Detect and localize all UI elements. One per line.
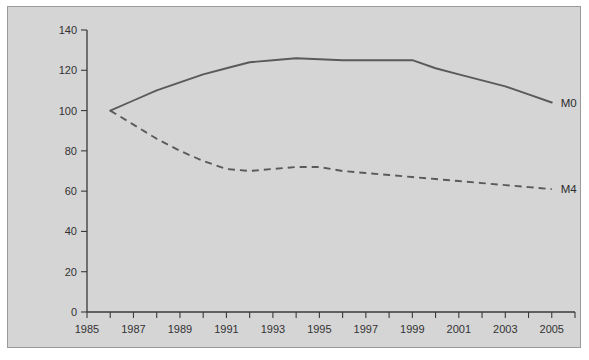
series-label-m0: M0 <box>561 97 577 109</box>
x-tick-label: 1993 <box>261 323 285 335</box>
line-chart-plot: 0204060801001201401985198719891991199319… <box>8 7 582 349</box>
x-tick-label: 1991 <box>214 323 238 335</box>
y-tick-label: 60 <box>65 185 77 197</box>
x-tick-label: 1987 <box>121 323 145 335</box>
y-tick-label: 140 <box>59 24 77 36</box>
x-tick-label: 1997 <box>354 323 378 335</box>
x-tick-label: 2001 <box>447 323 471 335</box>
x-tick-label: 1989 <box>168 323 192 335</box>
y-tick-label: 100 <box>59 105 77 117</box>
x-tick-label: 2005 <box>540 323 564 335</box>
chart-panel: 0204060801001201401985198719891991199319… <box>7 6 581 348</box>
x-tick-label: 1999 <box>400 323 424 335</box>
y-tick-label: 20 <box>65 266 77 278</box>
series-label-m4: M4 <box>561 183 578 195</box>
x-tick-label: 1985 <box>75 323 99 335</box>
x-tick-label: 1995 <box>307 323 331 335</box>
series-line-m4 <box>110 111 552 190</box>
figure-root: 0204060801001201401985198719891991199319… <box>0 0 589 360</box>
y-tick-label: 0 <box>71 306 77 318</box>
y-tick-label: 80 <box>65 145 77 157</box>
y-tick-label: 120 <box>59 64 77 76</box>
x-tick-label: 2003 <box>493 323 517 335</box>
y-tick-label: 40 <box>65 225 77 237</box>
series-line-m0 <box>110 58 552 110</box>
